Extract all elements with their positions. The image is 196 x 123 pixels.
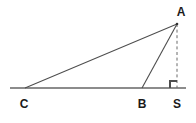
vertex-point-A xyxy=(176,23,179,26)
vertex-label-B: B xyxy=(138,98,147,110)
vertex-label-C: C xyxy=(20,98,29,110)
geometry-canvas xyxy=(0,0,196,123)
right-angle-mark-at-S xyxy=(170,81,177,88)
geometry-figure: A C B S xyxy=(0,0,196,123)
segment-BA xyxy=(142,24,177,88)
segment-CA xyxy=(25,24,177,88)
vertex-label-S: S xyxy=(173,98,181,110)
vertex-label-A: A xyxy=(177,6,186,18)
